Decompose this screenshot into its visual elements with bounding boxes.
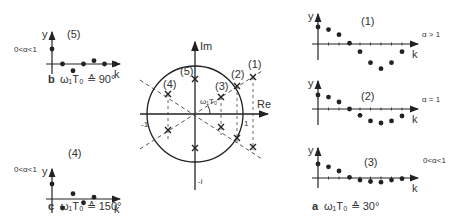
data-point	[358, 49, 363, 54]
k-axis-label: k	[412, 48, 418, 60]
data-point	[389, 178, 394, 183]
caption-c-text: ω₁T₀ ≙ 150°	[60, 200, 121, 212]
data-point	[50, 47, 55, 52]
y-axis-label: y	[308, 77, 314, 89]
data-point	[316, 25, 321, 30]
panel-3-label: (3)	[364, 156, 377, 168]
data-point	[337, 32, 342, 37]
data-point	[347, 175, 352, 180]
data-point	[326, 27, 331, 32]
data-point	[92, 195, 97, 200]
data-point	[368, 119, 373, 124]
data-point	[316, 162, 321, 167]
data-point	[368, 60, 373, 65]
data-point	[368, 179, 373, 184]
tick-real-neg1: -1	[141, 120, 149, 129]
data-point	[113, 62, 118, 67]
data-point	[358, 113, 363, 118]
data-point	[347, 41, 352, 46]
panel-4-condition: 0<α<1	[14, 165, 37, 174]
panel-5-condition: 0<α<1	[14, 45, 37, 54]
y-axis-label: y	[308, 10, 314, 22]
data-point	[347, 107, 352, 112]
pole-label-2: (2)	[231, 68, 244, 80]
tick-real-1: 1	[244, 119, 249, 128]
caption-a-letter: a	[312, 200, 319, 212]
y-axis-label: y	[42, 165, 48, 177]
data-point	[326, 164, 331, 169]
pole-label-1: (1)	[248, 58, 261, 70]
data-point	[316, 93, 321, 98]
k-axis-label: k	[412, 182, 418, 194]
data-point	[379, 121, 384, 126]
angle-label: ω₁T₀	[200, 97, 217, 106]
data-point	[102, 62, 107, 67]
data-point	[81, 62, 86, 67]
data-point	[337, 169, 342, 174]
response-panels: ykykykykyk	[42, 10, 418, 215]
data-point	[326, 95, 331, 100]
data-point	[50, 182, 55, 187]
data-point	[337, 100, 342, 105]
y-axis-label: y	[42, 28, 48, 40]
data-point	[71, 191, 76, 196]
panel-2-label: (2)	[361, 90, 374, 102]
data-point	[379, 180, 384, 185]
caption-b-letter: b	[48, 73, 55, 85]
panel-1-label: (1)	[361, 15, 374, 27]
data-point	[60, 62, 65, 67]
panel-3-condition: 0<α<1	[423, 156, 446, 165]
pole-label-4: (4)	[163, 78, 176, 90]
tick-imag-negi: -i	[198, 177, 203, 186]
data-point	[379, 66, 384, 71]
data-point	[400, 176, 405, 181]
panel-1-condition: α > 1	[422, 30, 441, 39]
caption-a-text: ω₁T₀ ≙ 30°	[324, 200, 379, 212]
y-axis-label: y	[308, 144, 314, 156]
k-axis-label: k	[412, 113, 418, 125]
axis-im-label: Im	[200, 40, 212, 52]
pole-label-5: (5)	[180, 65, 193, 77]
panel-2-condition: α = 1	[422, 95, 441, 104]
unit-circle-diagram: ω₁T₀ (1) (2) (3) (4) (5) Im Re 1 -1 -i	[140, 40, 271, 190]
data-point	[389, 119, 394, 124]
data-point	[400, 114, 405, 119]
figure-canvas: ω₁T₀ (1) (2) (3) (4) (5) Im Re 1 -1 -i y…	[0, 0, 472, 222]
data-point	[389, 60, 394, 65]
angle-arc	[208, 106, 210, 114]
pole-label-3: (3)	[215, 80, 228, 92]
panel-4-label: (4)	[68, 147, 81, 159]
data-point	[92, 58, 97, 63]
data-point	[358, 178, 363, 183]
axis-re-label: Re	[257, 98, 271, 110]
data-point	[400, 49, 405, 54]
caption-c-letter: c	[48, 200, 54, 212]
caption-b-text: ω₁T₀ ≙ 90°	[60, 73, 115, 85]
panel-5-label: (5)	[67, 28, 80, 40]
